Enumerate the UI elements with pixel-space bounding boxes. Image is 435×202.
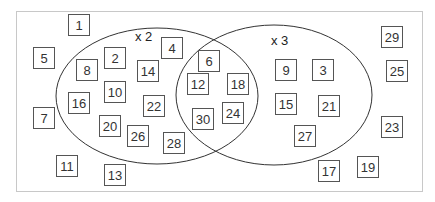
set-x3-label: x 3 xyxy=(271,33,288,48)
number-box-10: 10 xyxy=(104,81,126,103)
number-box-5: 5 xyxy=(33,47,55,69)
number-box-3: 3 xyxy=(312,59,334,81)
number-box-2: 2 xyxy=(104,47,126,69)
number-box-9: 9 xyxy=(275,59,297,81)
number-box-27: 27 xyxy=(294,125,316,147)
number-box-22: 22 xyxy=(143,95,165,117)
number-box-20: 20 xyxy=(99,115,121,137)
number-box-29: 29 xyxy=(381,26,403,48)
number-box-26: 26 xyxy=(127,125,149,147)
number-box-23: 23 xyxy=(381,116,403,138)
number-box-16: 16 xyxy=(68,92,90,114)
number-box-17: 17 xyxy=(318,160,340,182)
number-box-28: 28 xyxy=(163,132,185,154)
number-box-19: 19 xyxy=(357,156,379,178)
number-box-6: 6 xyxy=(198,50,220,72)
number-box-25: 25 xyxy=(386,60,408,82)
number-box-12: 12 xyxy=(187,73,209,95)
number-box-30: 30 xyxy=(192,108,214,130)
number-box-24: 24 xyxy=(222,102,244,124)
set-x2-label: x 2 xyxy=(135,29,152,44)
number-box-4: 4 xyxy=(161,37,183,59)
number-box-18: 18 xyxy=(227,73,249,95)
number-box-15: 15 xyxy=(275,93,297,115)
number-box-13: 13 xyxy=(104,164,126,186)
number-box-14: 14 xyxy=(137,60,159,82)
number-box-8: 8 xyxy=(76,59,98,81)
number-box-7: 7 xyxy=(33,107,55,129)
number-box-11: 11 xyxy=(56,155,78,177)
number-box-1: 1 xyxy=(68,14,90,36)
number-box-21: 21 xyxy=(318,95,340,117)
